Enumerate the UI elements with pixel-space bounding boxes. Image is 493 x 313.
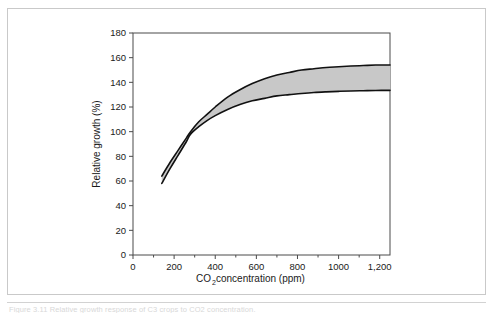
y-tick-label: 140	[110, 77, 126, 88]
x-tick-label: 200	[166, 261, 182, 272]
y-tick-label: 60	[115, 175, 126, 186]
x-tick-label: 1,200	[368, 261, 392, 272]
x-axis-title-rest: concentration (ppm)	[216, 273, 305, 284]
chart-canvas: 020406080100120140160180 020040060080010…	[0, 0, 493, 313]
y-tick-label: 160	[110, 52, 126, 63]
figure-page: 020406080100120140160180 020040060080010…	[0, 0, 493, 313]
lower-bound-curve	[162, 90, 390, 183]
y-tick-label: 180	[110, 27, 126, 38]
y-tick-label: 120	[110, 101, 126, 112]
y-tick-label: 100	[110, 126, 126, 137]
x-tick-label: 0	[130, 261, 135, 272]
y-tick-label: 80	[115, 151, 126, 162]
x-axis-title: CO	[196, 273, 211, 284]
figure-caption-strip: Figure 3.11 Relative growth response of …	[7, 302, 486, 313]
x-tick-label: 600	[248, 261, 264, 272]
figure-caption: Figure 3.11 Relative growth response of …	[9, 305, 256, 313]
x-tick-label: 800	[290, 261, 306, 272]
y-tick-label: 0	[121, 249, 126, 260]
caption-divider	[7, 302, 486, 303]
y-tick-label: 20	[115, 225, 126, 236]
x-axis-tick-labels: 020040060080010001,200	[130, 261, 391, 272]
x-axis-ticks	[133, 255, 380, 259]
y-tick-label: 40	[115, 200, 126, 211]
y-axis-ticks	[129, 33, 133, 255]
y-axis-title: Relative growth (%)	[91, 100, 102, 187]
x-tick-label: 400	[207, 261, 223, 272]
x-tick-label: 1000	[328, 261, 349, 272]
y-axis-tick-labels: 020406080100120140160180	[110, 27, 126, 260]
